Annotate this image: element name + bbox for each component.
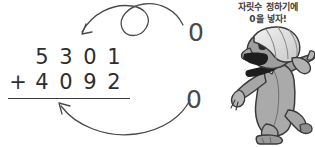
- character-illustration: [228, 24, 315, 147]
- digit-top-ones: 1: [102, 45, 126, 69]
- sum-horizontal-rule: [8, 98, 130, 99]
- placeholder-zero-bottom: 0: [186, 87, 202, 112]
- worksheet-illustration: 5 3 0 1 + 4 0 9 2 0 0 자릿수 정하기에 0을 넣: [0, 0, 315, 147]
- digit-bottom-tens: 9: [78, 70, 102, 94]
- digit-bottom-ones: 2: [102, 70, 126, 94]
- arrow-bottom: [59, 100, 190, 135]
- speech-line-1: 자릿수 정하기에: [222, 1, 314, 13]
- placeholder-zero-top: 0: [188, 20, 204, 45]
- digit-bottom-thousands: 4: [30, 70, 54, 94]
- addition-problem: 5 3 0 1 + 4 0 9 2: [6, 44, 136, 104]
- speech-caption: 자릿수 정하기에 0을 넣자!: [222, 1, 314, 25]
- plus-operator: +: [6, 70, 30, 94]
- addition-row-bottom: + 4 0 9 2: [6, 69, 136, 95]
- digit-top-tens: 0: [78, 45, 102, 69]
- digit-top-thousands: 5: [30, 45, 54, 69]
- addition-row-top: 5 3 0 1: [6, 44, 136, 70]
- digit-bottom-hundreds: 0: [54, 70, 78, 94]
- digit-top-hundreds: 3: [54, 45, 78, 69]
- arrow-top: [82, 4, 183, 36]
